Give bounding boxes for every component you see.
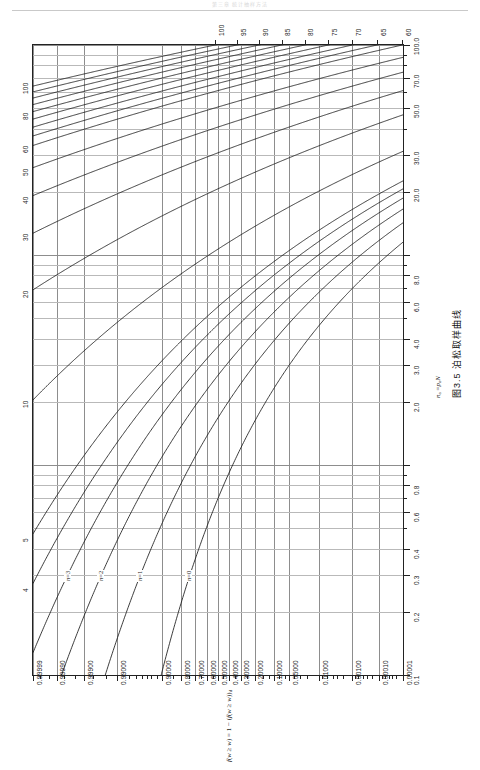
x-tick-label: 0.99900 (87, 660, 94, 685)
curve-svg (33, 45, 403, 675)
y-tick-major (404, 155, 410, 156)
y-tick-label: 30.0 (413, 151, 420, 164)
x-tick-label: 0.00100 (355, 660, 362, 685)
top-tick (305, 40, 306, 44)
top-tick (352, 40, 353, 44)
x-tick-major (57, 676, 58, 681)
x-tick-major (33, 676, 34, 681)
top-tick (259, 40, 260, 44)
y-tick-label: 3.0 (413, 365, 420, 375)
curves-layer (33, 45, 403, 675)
y-tick-major (404, 365, 410, 366)
top-scale-label: 90 (262, 28, 269, 36)
y-tick-major (404, 339, 410, 340)
top-scale-label: 80 (307, 28, 314, 36)
poisson-curve-n30 (33, 91, 403, 234)
y-tick-major (404, 45, 410, 46)
x-tick-minor (142, 676, 143, 679)
x-tick-minor (367, 676, 368, 679)
poisson-curve-n50 (33, 57, 403, 167)
x-tick-label: 0.00001 (406, 660, 413, 685)
x-tick-minor (151, 676, 152, 679)
y-tick (404, 528, 407, 529)
left-scale-label: 100 (22, 83, 29, 94)
y-tick-label: 0.4 (413, 549, 420, 559)
x-tick-minor (285, 676, 286, 679)
left-scale-label: 4 (22, 588, 29, 592)
y-tick-major (404, 275, 410, 276)
y-tick (404, 129, 407, 130)
y-tick-label: 0.8 (413, 486, 420, 496)
x-tick-minor (75, 676, 76, 679)
left-scale-label: 20 (22, 290, 29, 298)
x-tick-label: 0.40000 (232, 660, 239, 685)
x-tick-minor (300, 676, 301, 679)
x-axis-caption: f(w ≥ w) = 1 − (f(w ≥ w))d (225, 690, 233, 762)
x-tick-major (255, 676, 256, 681)
y-tick-label: 0.1 (413, 675, 420, 685)
top-scale-label: 75 (331, 28, 338, 36)
y-tick (404, 55, 407, 56)
x-tick-label: 0.60000 (210, 660, 217, 685)
y-tick (404, 255, 410, 256)
y-tick-label: 50.0 (413, 105, 420, 118)
y-tick (404, 465, 410, 466)
x-tick-minor (136, 676, 137, 679)
y-tick-label: 0.6 (413, 512, 420, 522)
x-tick-major (162, 676, 163, 681)
top-tick (282, 40, 283, 44)
poisson-curve-n20 (33, 115, 403, 290)
y-tick-label: 4.0 (413, 339, 420, 349)
y-tick (404, 318, 407, 319)
left-scale-label: 30 (22, 234, 29, 242)
x-tick-major (195, 676, 196, 681)
y-tick (404, 92, 407, 93)
top-tick (237, 40, 238, 44)
top-scale-label: 65 (380, 28, 387, 36)
x-tick-label: 0.50000 (221, 660, 228, 685)
top-tick (402, 40, 403, 44)
poisson-curve-n60 (33, 45, 403, 145)
y-tick-major (404, 675, 410, 676)
x-tick-label: 0.70000 (198, 660, 205, 685)
y-tick-label: 100.0 (413, 38, 420, 55)
x-tick-major (274, 676, 275, 681)
x-tick-minor (147, 676, 148, 679)
y-axis-caption: na =paN (434, 376, 442, 398)
curve-label-n2: n=2 (97, 570, 104, 582)
top-tick (377, 40, 378, 44)
x-tick-label: 0.10000 (276, 660, 283, 685)
x-tick-major (181, 676, 182, 681)
y-tick-major (404, 575, 410, 576)
x-tick-major (207, 676, 208, 681)
y-tick (404, 498, 407, 499)
x-tick-major (289, 676, 290, 681)
x-tick-major (218, 676, 219, 681)
y-tick-major (404, 549, 410, 550)
left-scale-label: 60 (22, 146, 29, 154)
x-tick-label: 0.20000 (257, 660, 264, 685)
left-scale-label: 40 (22, 196, 29, 204)
left-scale-label: 50 (22, 168, 29, 176)
y-tick-label: 70.0 (413, 74, 420, 87)
poisson-curve-n1 (96, 223, 403, 675)
y-tick (404, 288, 407, 289)
left-scale-label: 10 (22, 400, 29, 408)
x-tick-minor (173, 676, 174, 679)
x-tick-label: 0.80000 (184, 660, 191, 685)
x-tick-minor (129, 676, 130, 679)
x-tick-minor (106, 676, 107, 679)
poisson-curve-n0 (154, 242, 403, 675)
y-tick-label: 6.0 (413, 302, 420, 312)
x-tick-minor (337, 676, 338, 679)
grid-line-vertical (403, 45, 404, 675)
y-tick (404, 265, 407, 266)
top-scale-label: 95 (240, 28, 247, 36)
x-tick-minor (333, 676, 334, 679)
curve-label-n3: n=3 (64, 570, 71, 582)
y-tick-major (404, 512, 410, 513)
curve-label-n1: n=1 (136, 570, 143, 582)
x-tick-major (117, 676, 118, 681)
x-tick-label: 0.05000 (292, 660, 299, 685)
x-tick-minor (396, 676, 397, 679)
